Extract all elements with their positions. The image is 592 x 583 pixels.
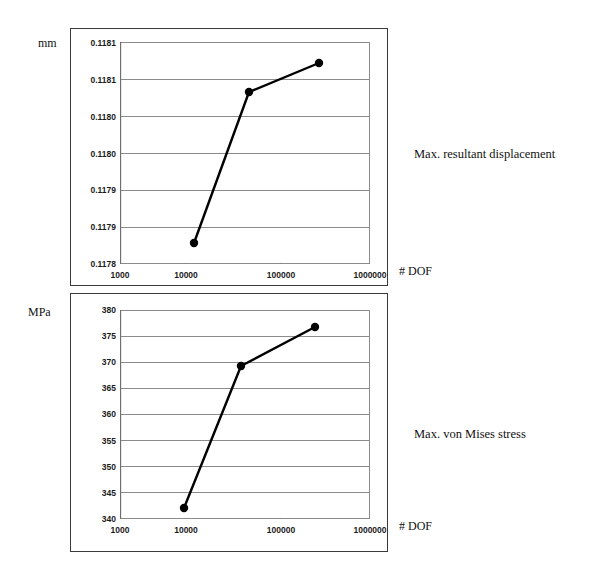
y-tick-label: 0.1179 [78,222,116,232]
plot-svg-displacement [120,42,370,264]
x-tick-label: 1000000 [353,270,386,280]
y-tick-label: 0.1181 [78,38,116,48]
y-axis-unit-label-displacement: mm [38,36,57,51]
x-tick-label: 1000 [111,270,130,280]
y-tick-label: 340 [84,514,116,524]
plot-area-displacement [120,42,370,264]
chart-caption-stress: Max. von Mises stress [414,427,526,442]
plot-svg-stress [120,310,370,519]
x-tick-label: 10000 [174,270,198,280]
y-tick-label: 375 [84,331,116,341]
x-tick-label: 100000 [267,270,295,280]
x-tick-label: 10000 [174,525,198,535]
series-line-stress [184,327,315,508]
series-markers-stress [180,323,319,512]
y-tick-label: 355 [84,436,116,446]
x-axis-title-stress: # DOF [399,519,432,534]
plot-area-stress [120,310,370,519]
gridlines [120,311,370,519]
gridlines [120,43,370,264]
x-tick-label: 1000000 [353,525,386,535]
y-tick-label: 370 [84,357,116,367]
y-axis-unit-label-stress: MPa [28,305,51,320]
y-tick-label: 0.1178 [78,259,116,269]
x-tick-label: 1000 [111,525,130,535]
y-tick-label: 0.1181 [78,75,116,85]
y-tick-label: 345 [84,488,116,498]
y-tick-label: 360 [84,409,116,419]
y-tick-label: 365 [84,383,116,393]
y-tick-label: 380 [84,305,116,315]
chart-caption-displacement: Max. resultant displacement [414,147,555,162]
y-tick-label: 350 [84,462,116,472]
y-tick-label: 0.1180 [78,149,116,159]
x-tick-label: 100000 [267,525,295,535]
x-axis-title-displacement: # DOF [399,264,432,279]
y-tick-label: 0.1180 [78,112,116,122]
y-tick-label: 0.1179 [78,185,116,195]
